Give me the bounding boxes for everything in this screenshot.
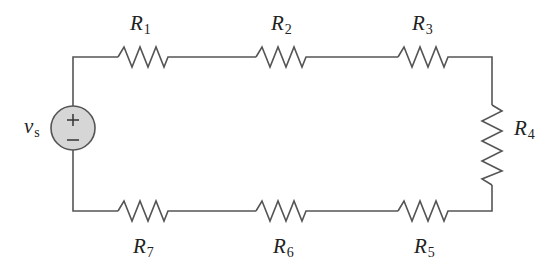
resistor-r6-zigzag: [256, 201, 310, 221]
resistor-r7-zigzag: [118, 201, 172, 221]
wire-left-bottom: [73, 150, 118, 211]
r5-symbol: R: [414, 234, 427, 258]
resistor-r4-zigzag: [482, 105, 502, 185]
r6-symbol: R: [273, 234, 286, 258]
label-r5: R5: [414, 236, 435, 257]
wire-right-bottom: [452, 185, 492, 211]
label-r2: R2: [271, 13, 292, 34]
r5-subscript: 5: [428, 245, 435, 260]
label-r3: R3: [412, 13, 433, 34]
r6-subscript: 6: [287, 245, 294, 260]
label-r6: R6: [273, 236, 294, 257]
source-label: vs: [24, 116, 40, 137]
resistor-r5-zigzag: [398, 201, 452, 221]
voltage-source-circle: [51, 106, 95, 150]
r4-subscript: 4: [528, 127, 535, 142]
circuit-wires: [73, 57, 492, 211]
r1-subscript: 1: [144, 22, 151, 37]
label-r7: R7: [133, 236, 154, 257]
source-subscript: s: [34, 125, 39, 140]
r3-subscript: 3: [426, 22, 433, 37]
series-circuit-diagram: vs R1 R2 R3 R4 R5 R6 R7: [0, 0, 560, 275]
r4-symbol: R: [514, 116, 527, 140]
r3-symbol: R: [412, 11, 425, 35]
r7-symbol: R: [133, 234, 146, 258]
r7-subscript: 7: [147, 245, 154, 260]
source-symbol: v: [24, 114, 33, 138]
voltage-source: [51, 106, 95, 150]
label-r4: R4: [514, 118, 535, 139]
wire-top-right: [452, 57, 492, 105]
label-r1: R1: [130, 13, 151, 34]
r1-symbol: R: [130, 11, 143, 35]
resistor-r1-zigzag: [118, 47, 172, 67]
r2-subscript: 2: [285, 22, 292, 37]
wire-left-top: [73, 57, 118, 106]
r2-symbol: R: [271, 11, 284, 35]
resistor-r2-zigzag: [256, 47, 310, 67]
resistor-r3-zigzag: [398, 47, 452, 67]
